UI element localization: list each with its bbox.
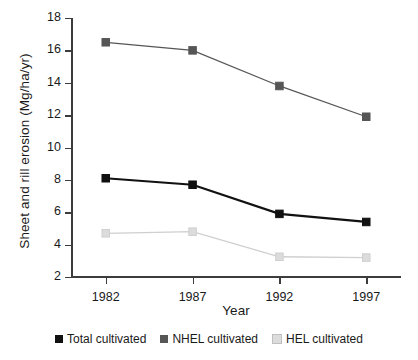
- chart-figure: Sheet and rill erosion (Mg/ha/yr) 246810…: [0, 0, 418, 360]
- legend-item[interactable]: Total cultivated: [55, 332, 146, 346]
- data-point-marker: [363, 218, 371, 226]
- x-tick-label: 1982: [92, 290, 120, 304]
- legend-item[interactable]: NHEL cultivated: [160, 332, 258, 346]
- data-point-marker: [363, 113, 371, 121]
- data-point-marker: [276, 82, 284, 90]
- y-tick-label: 6: [54, 204, 61, 218]
- y-tick: 2: [65, 277, 71, 278]
- legend-swatch-icon: [272, 334, 282, 344]
- legend-swatch-icon: [55, 335, 63, 343]
- y-tick-label: 12: [47, 107, 61, 121]
- series-line: [106, 178, 367, 222]
- y-tick-label: 8: [54, 172, 61, 186]
- data-point-marker: [102, 230, 110, 238]
- y-tick-label: 4: [54, 237, 61, 251]
- legend-swatch-icon: [160, 335, 168, 343]
- data-point-marker: [102, 175, 110, 183]
- legend-label: NHEL cultivated: [172, 332, 258, 346]
- y-tick-label: 16: [47, 42, 61, 56]
- data-point-marker: [189, 47, 197, 55]
- x-tick: [193, 277, 194, 284]
- data-point-marker: [276, 253, 284, 261]
- series-line: [106, 232, 367, 258]
- plot-area: 24681012141618 1982198719921997: [71, 18, 401, 277]
- y-tick-label: 2: [54, 269, 61, 283]
- series-layer: [71, 18, 401, 277]
- data-point-marker: [363, 254, 371, 262]
- x-tick-label: 1987: [179, 290, 207, 304]
- legend-label: Total cultivated: [67, 332, 146, 346]
- y-tick-label: 10: [47, 140, 61, 154]
- x-axis-title: Year: [71, 303, 401, 318]
- x-tick-label: 1997: [352, 290, 380, 304]
- data-point-marker: [276, 210, 284, 218]
- series-line: [106, 42, 367, 116]
- data-point-marker: [102, 39, 110, 47]
- data-point-marker: [189, 228, 197, 236]
- chart-legend: Total cultivatedNHEL cultivatedHEL culti…: [0, 332, 418, 346]
- x-tick-label: 1992: [266, 290, 294, 304]
- x-tick: [106, 277, 107, 284]
- x-tick: [366, 277, 367, 284]
- y-tick-label: 18: [47, 10, 61, 24]
- y-axis-title: Sheet and rill erosion (Mg/ha/yr): [14, 6, 36, 296]
- legend-item[interactable]: HEL cultivated: [272, 332, 363, 346]
- x-tick: [279, 277, 280, 284]
- legend-label: HEL cultivated: [286, 332, 363, 346]
- data-point-marker: [189, 181, 197, 189]
- y-tick-label: 14: [47, 75, 61, 89]
